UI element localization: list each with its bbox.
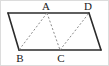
- vertex-label-b: B: [15, 53, 25, 64]
- geometry-figure: A D B C: [0, 0, 109, 66]
- dashed-segment-ac: [47, 13, 60, 50]
- vertex-label-c: C: [56, 53, 66, 64]
- right-edge: [89, 13, 101, 50]
- dashed-segment-cd: [60, 13, 89, 50]
- left-edge: [8, 13, 19, 50]
- vertex-label-a: A: [41, 1, 51, 12]
- dashed-segment-ab: [19, 13, 47, 50]
- vertex-label-d: D: [83, 1, 93, 12]
